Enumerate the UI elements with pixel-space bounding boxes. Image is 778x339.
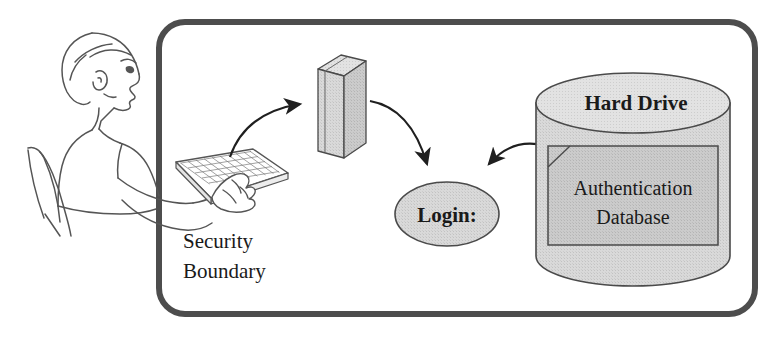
boundary-label-line2: Boundary — [183, 259, 266, 283]
hard-drive-label: Hard Drive — [584, 91, 687, 115]
tower-side-face — [344, 61, 366, 158]
auth-db-label-line2: Database — [596, 206, 669, 228]
chair-edge — [28, 150, 44, 218]
boundary-label-line1: Security — [183, 229, 253, 253]
security-boundary-label: Security Boundary — [183, 229, 266, 283]
face-profile — [114, 74, 139, 110]
login-label: Login: — [417, 203, 477, 227]
chair-leg — [45, 214, 60, 236]
computer-tower[interactable] — [318, 55, 366, 158]
authentication-database[interactable]: Authentication Database — [548, 146, 718, 245]
seat-line — [58, 206, 156, 214]
cheek-line — [104, 94, 116, 97]
chair-back-outer — [28, 147, 60, 222]
eye — [126, 66, 135, 73]
hard-drive[interactable]: Hard Drive Authentication Database — [536, 73, 730, 286]
tower-front-face — [318, 69, 344, 158]
neck-front — [99, 129, 120, 143]
auth-db-label-line1: Authentication — [574, 177, 693, 199]
seated-user — [28, 33, 212, 236]
security-boundary-diagram: Login: Hard Drive Authentication Databas… — [0, 0, 778, 339]
diagram-canvas: Login: Hard Drive Authentication Databas… — [0, 0, 778, 339]
arrow-tower-to-login — [370, 101, 427, 164]
ear — [93, 71, 107, 90]
back-outline — [58, 130, 92, 206]
arrow-keyboard-to-tower — [230, 104, 300, 157]
ear-inner — [98, 78, 101, 82]
shoulder-seam — [118, 144, 122, 178]
head-hair-back — [62, 33, 92, 104]
hairline — [90, 50, 131, 57]
shoulder-front — [120, 143, 159, 196]
arm-lower — [122, 200, 212, 230]
jawline — [99, 108, 114, 129]
neck-back — [92, 108, 99, 130]
login-prompt[interactable]: Login: — [395, 182, 499, 246]
